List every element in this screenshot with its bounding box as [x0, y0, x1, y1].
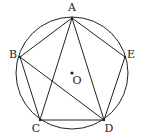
label-c: C: [32, 122, 40, 135]
vertex-dot-a: [71, 17, 73, 19]
vertex-dot-d: [103, 119, 105, 121]
geometry-figure: A B C D E O: [0, 0, 142, 139]
segment-ac: [40, 18, 72, 120]
label-o: O: [72, 74, 81, 87]
vertex-dot-e: [124, 56, 126, 58]
label-e: E: [127, 48, 135, 61]
labels: A B C D E O: [9, 1, 135, 135]
vertex-dot-c: [39, 119, 41, 121]
segment-ad: [72, 18, 104, 120]
segment-bd: [20, 57, 104, 120]
label-d: D: [105, 122, 114, 135]
label-a: A: [67, 1, 77, 14]
segment-de: [104, 57, 125, 120]
label-b: B: [9, 48, 17, 61]
vertex-dot-b: [19, 56, 21, 58]
segments: [20, 18, 125, 120]
